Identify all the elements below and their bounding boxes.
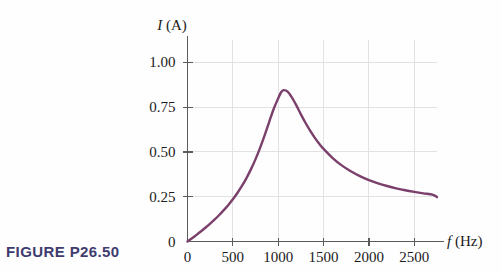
gridline-group [188,40,438,242]
x-tick-label: 0 [184,249,192,265]
x-axis-title: f (Hz) [447,233,482,250]
x-tick-label: 1000 [263,249,293,265]
y-tick-label-group: 00.250.500.751.00 [149,54,175,249]
data-series-group [188,90,438,241]
x-tick-label: 1500 [309,249,339,265]
chart-plot-area: 00.250.500.751.00 05001000150020002500 I… [0,0,502,274]
y-tick-label: 1.00 [149,54,175,70]
data-series-line [188,90,438,241]
y-tick-label: 0.50 [149,144,175,160]
x-tick-label: 2500 [399,249,429,265]
y-tick-label: 0.25 [149,189,175,205]
figure-container: FIGURE P26.50 00.250.500.751.00 05001000… [0,0,502,274]
y-tick-label: 0 [168,234,176,250]
x-tick-label: 500 [222,249,245,265]
resonance-curve-chart: 00.250.500.751.00 05001000150020002500 I… [0,0,502,274]
x-tick-label-group: 05001000150020002500 [184,249,430,265]
y-axis-title: I (A) [156,17,187,34]
y-tick-label: 0.75 [149,99,175,115]
x-tick-label: 2000 [354,249,384,265]
